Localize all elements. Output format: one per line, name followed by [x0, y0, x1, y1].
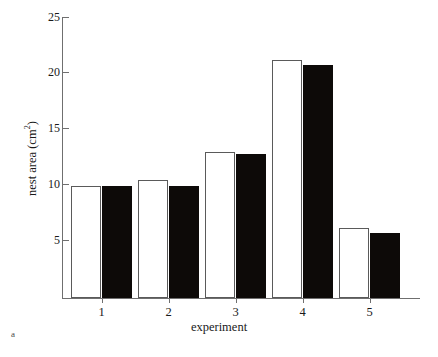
y-axis-title-close: ) — [25, 121, 39, 125]
bar-2-open — [138, 180, 168, 298]
y-axis-title-superscript: 2 — [23, 125, 32, 129]
x-tick-mark-4 — [303, 298, 304, 303]
x-tick-label-4: 4 — [283, 305, 323, 319]
y-tick-label-text: 25 — [22, 11, 60, 23]
y-tick-label-text: 20 — [22, 66, 60, 78]
x-axis-line — [62, 298, 420, 299]
bar-3-filled — [236, 154, 266, 298]
x-tick-label-3: 3 — [216, 305, 256, 319]
y-tick-mark-25 — [63, 17, 69, 18]
bar-2-filled — [169, 186, 199, 298]
y-tick-mark-5 — [63, 240, 69, 241]
y-tick-mark-10 — [63, 184, 69, 185]
x-tick-mark-2 — [169, 298, 170, 303]
bar-5-filled — [370, 233, 400, 298]
y-axis-title-base: nest area (cm — [25, 129, 39, 196]
nest-area-bar-chart: 5 10 15 20 25 nest area (cm2) 12345 expe… — [0, 0, 438, 357]
y-tick-label-text: 5 — [22, 234, 60, 246]
y-tick-label-20: 20 — [16, 66, 60, 78]
x-tick-label-5: 5 — [350, 305, 390, 319]
x-tick-mark-3 — [236, 298, 237, 303]
x-tick-label-1: 1 — [82, 305, 122, 319]
bar-1-open — [71, 186, 101, 298]
x-axis-title: experiment — [0, 320, 438, 335]
y-tick-label-25: 25 — [16, 11, 60, 23]
y-tick-mark-20 — [63, 72, 69, 73]
bar-5-open — [339, 228, 369, 298]
y-tick-mark-15 — [63, 128, 69, 129]
y-axis-title: nest area (cm2) — [21, 89, 38, 229]
y-tick-label-5: 5 — [16, 234, 60, 246]
panel-label: a — [11, 329, 15, 339]
bar-3-open — [205, 152, 235, 298]
x-tick-label-2: 2 — [149, 305, 189, 319]
x-tick-mark-1 — [102, 298, 103, 303]
bar-4-open — [272, 60, 302, 298]
y-axis-line — [62, 17, 63, 298]
bar-4-filled — [303, 65, 333, 298]
x-tick-mark-5 — [370, 298, 371, 303]
bar-1-filled — [102, 186, 132, 298]
